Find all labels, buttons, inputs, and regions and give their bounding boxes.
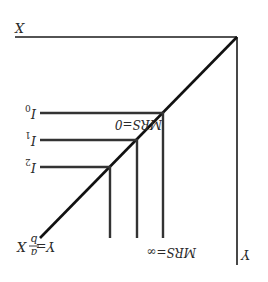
ray-equation-label: Y= a b X (16, 233, 55, 259)
y-axis-label: Y (240, 247, 250, 262)
mrs-infinity-label: MRS=∞ (146, 245, 197, 259)
diagram-canvas: X Y I0 I1 I2 MRS=0 MRS=∞ Y= a b X (0, 0, 268, 282)
svg-text:a: a (31, 246, 38, 259)
curve-label-i1: I1 (25, 130, 37, 148)
curve-label-i0: I0 (25, 103, 37, 121)
mrs-zero-label: MRS=0 (114, 117, 163, 131)
expansion-ray (40, 37, 237, 238)
leontief-indifference-diagram: X Y I0 I1 I2 MRS=0 MRS=∞ Y= a b X (0, 0, 268, 282)
rotated-group: X Y I0 I1 I2 MRS=0 MRS=∞ Y= a b X (14, 20, 250, 265)
svg-text:X: X (16, 239, 27, 254)
curve-label-i2: I2 (25, 157, 37, 175)
svg-text:b: b (30, 233, 37, 246)
x-axis-label: X (14, 20, 25, 35)
